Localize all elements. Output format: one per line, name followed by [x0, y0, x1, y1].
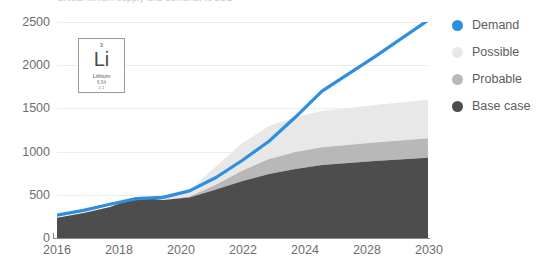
legend-item-base-case[interactable]: Base case: [452, 95, 538, 117]
chart-screenshot: Global lithium supply and demand, kt LCE…: [0, 0, 539, 265]
x-axis-line: [53, 238, 430, 239]
y-tick-label: 1500: [2, 102, 50, 115]
legend-swatch-icon: [452, 101, 463, 112]
y-tick-label: 500: [2, 189, 50, 202]
x-tick-label: 2016: [27, 244, 87, 257]
legend-swatch-icon: [452, 47, 463, 58]
legend-swatch-icon: [452, 20, 463, 31]
element-symbol: Li: [94, 49, 110, 70]
x-tick-label: 2030: [399, 244, 459, 257]
x-axis-labels: 2016 2018 2020 2022 2024 2028 2030: [0, 244, 470, 262]
legend-item-demand[interactable]: Demand: [452, 14, 538, 36]
y-tick-label: 1000: [2, 146, 50, 159]
x-tick-label: 2028: [337, 244, 397, 257]
y-tick-label: 2500: [2, 16, 50, 29]
x-tick-label: 2024: [275, 244, 335, 257]
legend-item-possible[interactable]: Possible: [452, 41, 538, 63]
y-axis-labels: 2500 2000 1500 1000 500 0: [0, 0, 50, 265]
element-name: Lithium: [93, 73, 111, 80]
legend-label: Demand: [472, 19, 519, 32]
x-tick-label: 2022: [213, 244, 273, 257]
legend-label: Base case: [472, 100, 530, 113]
x-tick-label: 2018: [89, 244, 149, 257]
lithium-element-card: 3 Li Lithium 6.94 2-1: [78, 38, 125, 93]
chart-title: Global lithium supply and demand, kt LCE: [57, 0, 387, 3]
legend-item-probable[interactable]: Probable: [452, 68, 538, 90]
element-config: 2-1: [98, 85, 104, 90]
legend-swatch-icon: [452, 74, 463, 85]
x-tick-label: 2020: [151, 244, 211, 257]
legend-label: Possible: [472, 46, 519, 59]
chart-legend: Demand Possible Probable Base case: [452, 14, 538, 122]
y-tick-label: 2000: [2, 59, 50, 72]
legend-label: Probable: [472, 73, 522, 86]
